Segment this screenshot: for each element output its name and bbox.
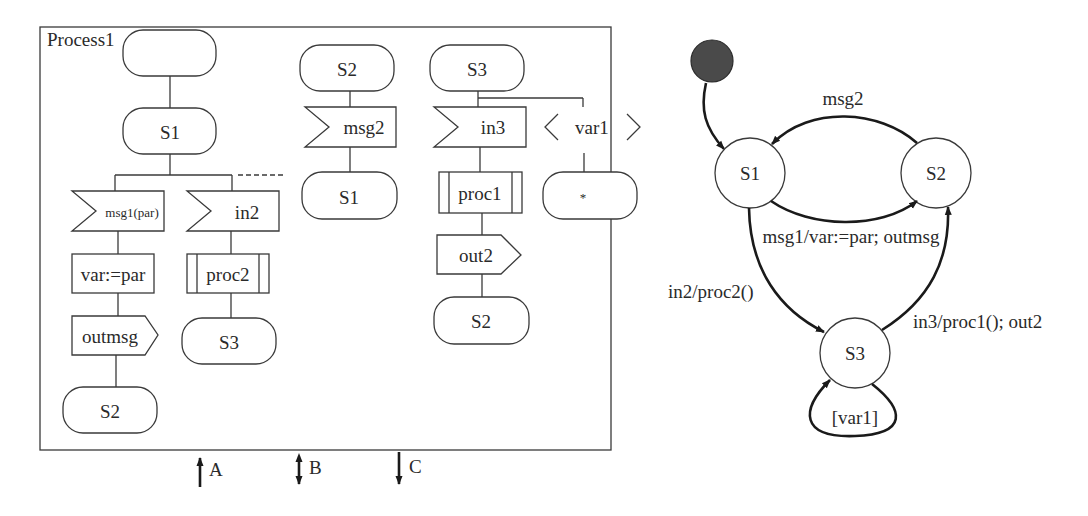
input-label: in2 (235, 202, 259, 223)
signal-label-b: B (309, 457, 322, 478)
state-label: S2 (337, 59, 357, 80)
signal-label-c: C (409, 456, 422, 477)
initial-transition (704, 83, 724, 149)
diagram-canvas: Process1 S1 msg1(par) var:=par outmsg S2… (0, 0, 1088, 516)
input-symbol-in2 (187, 191, 279, 231)
transition-label: in2/proc2() (668, 281, 753, 303)
input-label: in3 (481, 117, 505, 138)
task-label: var:=par (81, 264, 146, 285)
process-name: Process1 (47, 29, 115, 50)
sdl-column-2: S2 msg2 S1 (300, 45, 397, 219)
nextstate-label: S2 (471, 311, 491, 332)
sdl-column-3: S3 in3 proc1 out2 S2 var1 * (430, 45, 640, 344)
state-label: S3 (845, 343, 865, 364)
nextstate-label: * (580, 190, 587, 205)
input-label: msg1(par) (105, 205, 158, 220)
state-label: S1 (160, 122, 180, 143)
input-label: msg2 (343, 117, 384, 138)
transition-s2-s1 (772, 116, 917, 144)
nextstate-label: S3 (219, 332, 239, 353)
procedure-label: proc2 (206, 264, 249, 285)
state-label: S2 (926, 163, 946, 184)
procedure-label: proc1 (458, 183, 501, 204)
initial-state-icon (691, 40, 733, 82)
output-label: out2 (459, 245, 493, 266)
nextstate-symbol-dash (543, 172, 637, 219)
start-symbol (123, 30, 216, 76)
transition-label: [var1] (832, 407, 878, 428)
transition-s1-s2 (771, 201, 917, 222)
output-label: outmsg (82, 326, 138, 347)
sdl-column-1: S1 msg1(par) var:=par outmsg S2 in2 proc… (63, 30, 286, 433)
state-label: S3 (467, 59, 487, 80)
transition-label: in3/proc1(); out2 (913, 311, 1042, 333)
nextstate-label: S1 (339, 187, 359, 208)
continuous-signal-label: var1 (575, 117, 609, 138)
nextstate-label: S2 (100, 401, 120, 422)
transition-label: msg2 (822, 88, 863, 109)
transition-label: msg1/var:=par; outmsg (763, 226, 940, 247)
state-label: S1 (740, 163, 760, 184)
signal-label-a: A (209, 459, 223, 480)
signal-arrows: A B C (200, 452, 422, 487)
state-machine: S1 S2 S3 msg2 msg1/var:=par; outmsg in2/… (668, 40, 1042, 436)
